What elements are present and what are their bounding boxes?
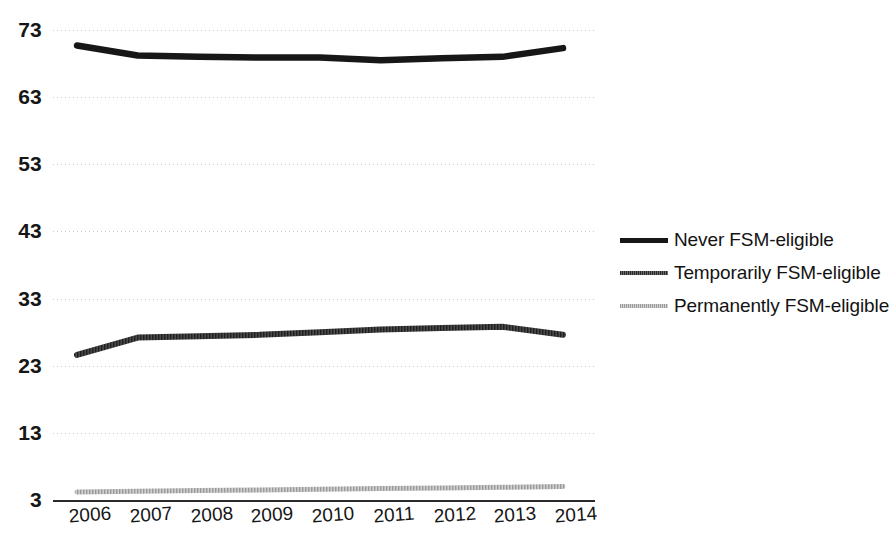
x-axis-tick-label: 2009 [250, 503, 294, 528]
x-axis-tick-label: 2014 [554, 503, 598, 528]
legend-label: Permanently FSM-eligible [674, 295, 889, 317]
y-axis-tick-label: 43 [18, 219, 42, 243]
series-never-fsm-eligible [77, 45, 563, 60]
plot-area [53, 30, 595, 500]
x-axis-tick-label: 2011 [373, 503, 415, 528]
x-axis-labels: 200620072008200920102011201220132014 [53, 500, 595, 542]
x-axis-tick-label: 2006 [68, 503, 112, 528]
y-axis-tick-label: 33 [18, 287, 42, 311]
y-axis-tick-label: 3 [30, 488, 42, 512]
x-axis-tick-label: 2010 [311, 503, 355, 528]
y-axis-tick-label: 23 [18, 354, 42, 378]
x-axis-tick-label: 2012 [433, 503, 477, 528]
x-axis-tick-label: 2008 [190, 503, 234, 528]
x-axis-tick-label: 2007 [129, 503, 173, 528]
x-axis-tick-label: 2013 [493, 503, 537, 528]
legend-item-permanently-fsm-eligible[interactable]: Permanently FSM-eligible [620, 291, 892, 321]
y-axis-tick-label: 73 [18, 18, 42, 42]
y-axis-tick-label: 53 [18, 152, 42, 176]
legend-line-icon-never [620, 238, 668, 243]
y-axis-tick-label: 13 [18, 421, 42, 445]
legend-line-icon-temporarily [620, 271, 668, 275]
y-axis-tick-label: 63 [18, 85, 42, 109]
chart-legend: Never FSM-eligible Temporarily FSM-eligi… [620, 225, 892, 324]
series-temporarily-fsm-eligible [77, 327, 563, 355]
y-axis-labels: 313233343536373 [0, 30, 50, 500]
line-chart: 313233343536373 [0, 0, 892, 542]
series-permanently-fsm-eligible [77, 487, 563, 492]
legend-label: Never FSM-eligible [674, 229, 834, 251]
legend-line-icon-permanently [620, 304, 668, 308]
legend-label: Temporarily FSM-eligible [674, 262, 881, 284]
legend-item-never-fsm-eligible[interactable]: Never FSM-eligible [620, 225, 892, 255]
series-layer [53, 30, 595, 500]
legend-item-temporarily-fsm-eligible[interactable]: Temporarily FSM-eligible [620, 258, 892, 288]
